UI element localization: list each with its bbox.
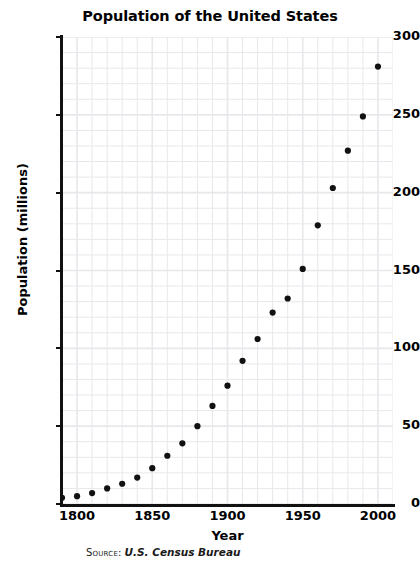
y-tick-mark: [56, 192, 62, 194]
data-point-layer: [62, 37, 393, 504]
y-tick-label: 300: [368, 28, 420, 43]
y-tick-mark: [56, 503, 62, 505]
data-point: [134, 474, 140, 480]
x-axis-title: Year: [62, 528, 393, 543]
data-point: [164, 453, 170, 459]
y-tick-label: 250: [368, 106, 420, 121]
source-note: Source: U.S. Census Bureau: [86, 546, 240, 558]
source-label: Source:: [86, 547, 122, 558]
data-point: [89, 490, 95, 496]
y-tick-label: 100: [368, 339, 420, 354]
y-tick-mark: [56, 270, 62, 272]
data-point: [270, 309, 276, 315]
data-point: [119, 481, 125, 487]
y-tick-mark: [56, 347, 62, 349]
y-tick-label: 150: [368, 262, 420, 277]
y-tick-mark: [56, 425, 62, 427]
y-tick-label: 200: [368, 184, 420, 199]
data-point: [149, 465, 155, 471]
data-point: [74, 493, 80, 499]
data-point: [330, 185, 336, 191]
data-point: [315, 222, 321, 228]
data-point: [300, 266, 306, 272]
y-tick-mark: [56, 36, 62, 38]
data-point: [209, 403, 215, 409]
data-point: [194, 423, 200, 429]
data-point: [179, 440, 185, 446]
x-tick-label: 1950: [273, 508, 333, 523]
data-point: [104, 485, 110, 491]
y-tick-mark: [56, 114, 62, 116]
data-point: [375, 63, 381, 69]
x-tick-label: 1900: [198, 508, 258, 523]
source-value: U.S. Census Bureau: [124, 546, 240, 558]
x-tick-label: 1800: [47, 508, 107, 523]
data-point: [345, 148, 351, 154]
x-tick-label: 1850: [122, 508, 182, 523]
data-point: [254, 336, 260, 342]
chart-title: Population of the United States: [0, 8, 420, 24]
y-tick-label: 50: [368, 417, 420, 432]
y-axis-title: Population (millions): [15, 150, 30, 330]
chart-figure: Population of the United States 05010015…: [0, 0, 420, 562]
plot-area: [62, 37, 393, 504]
data-point: [224, 383, 230, 389]
x-axis-line: [60, 504, 395, 507]
data-point: [285, 295, 291, 301]
data-point: [360, 113, 366, 119]
data-point: [239, 358, 245, 364]
x-tick-label: 2000: [348, 508, 408, 523]
